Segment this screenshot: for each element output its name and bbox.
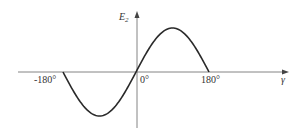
chart: E2 -180° 0° 180° γ — [0, 0, 301, 138]
x-tick-label-0: 0° — [140, 74, 149, 85]
x-tick-label-neg180: -180° — [34, 74, 56, 85]
y-axis-label: E2 — [118, 11, 129, 24]
y-axis-arrow-icon — [135, 11, 140, 18]
x-tick-label-180: 180° — [201, 74, 220, 85]
x-axis-label: γ — [281, 74, 286, 85]
